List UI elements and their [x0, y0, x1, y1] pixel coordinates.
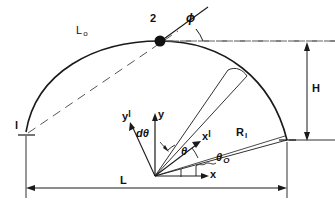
radius-line-theta-plus-dtheta — [155, 76, 247, 176]
diagram-svg — [0, 0, 335, 213]
h-dimension-arrow-top — [304, 42, 310, 51]
l-dimension-arrow-left — [26, 185, 35, 191]
label-axis-y-prime: yl — [122, 110, 131, 122]
label-angle-phi: ϕ — [186, 12, 195, 24]
theta-zero-leader-wavy-line — [196, 163, 216, 166]
label-d-theta: dθ — [136, 128, 149, 139]
label-radius-R1: Rl — [236, 127, 247, 140]
label-point-2: 2 — [150, 13, 156, 24]
label-span-L: L — [120, 175, 127, 186]
label-axis-x: x — [210, 169, 216, 180]
label-axis-x-prime: xl — [202, 130, 211, 142]
label-axis-y: y — [158, 109, 164, 120]
l-dimension-arrow-right — [278, 185, 287, 191]
main-arc-curve — [26, 41, 287, 140]
label-angle-theta: θ — [181, 146, 187, 157]
label-height-H: H — [312, 83, 320, 94]
label-angle-theta-zero: θO — [216, 152, 229, 165]
figure-canvas: Lo 2 l ϕ H Rl L x y xl yl θ θO dθ — [0, 0, 335, 213]
theta-angle-arc — [192, 148, 198, 158]
phi-angle-arc — [196, 29, 203, 41]
x-axis-arrowhead — [201, 173, 209, 179]
x-prime-axis-line — [155, 145, 196, 176]
label-arc-length-Lo: Lo — [76, 25, 88, 38]
label-point-1: l — [15, 120, 18, 131]
point-2-marker — [155, 36, 166, 47]
